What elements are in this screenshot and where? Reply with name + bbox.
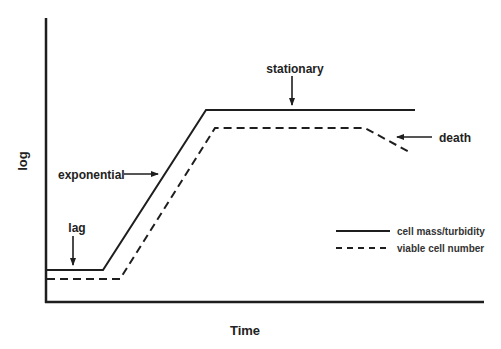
growth-curve-diagram: stationary death exponential lag log Tim… [0, 0, 501, 349]
axes [45, 18, 484, 303]
legend-cell-mass-label: cell mass/turbidity [397, 226, 485, 237]
viable-cell-number-line [47, 128, 411, 279]
legend: cell mass/turbidity viable cell number [336, 226, 485, 254]
y-axis-label: log [15, 151, 30, 171]
x-axis-label: Time [230, 323, 260, 338]
cell-mass-turbidity-line [47, 110, 415, 270]
death-label: death [439, 131, 471, 145]
legend-viable-cell-label: viable cell number [397, 243, 484, 254]
stationary-label: stationary [266, 62, 324, 76]
lag-label: lag [68, 221, 85, 235]
exponential-label: exponential [58, 168, 125, 182]
